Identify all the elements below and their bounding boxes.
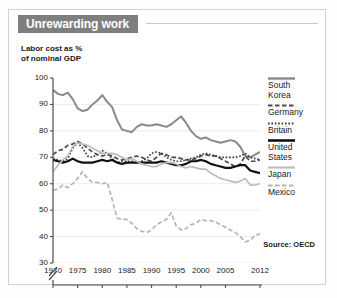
legend-label: United States	[268, 143, 322, 162]
legend-swatch-icon	[268, 138, 295, 142]
legend-swatch-icon	[268, 76, 295, 80]
legend-item[interactable]: Germany	[268, 103, 322, 118]
x-tick-label: 1985	[114, 267, 140, 275]
legend-item[interactable]: South Korea	[268, 76, 322, 100]
legend-swatch-icon	[268, 121, 295, 125]
legend-swatch-icon	[268, 103, 295, 107]
legend-item[interactable]: Britain	[268, 121, 322, 136]
x-tick-label: 2000	[188, 267, 214, 275]
x-tick-label: 1995	[163, 267, 189, 275]
x-tick-label: 2005	[213, 267, 239, 275]
plot-svg	[53, 78, 260, 263]
x-tick-label: 1975	[65, 267, 91, 275]
legend-swatch-icon	[268, 165, 295, 169]
x-tick-label: 1990	[139, 267, 165, 275]
x-tick-label: 2012	[247, 267, 273, 275]
y-tick-label: 60	[22, 180, 48, 188]
source-note: Source: OECD	[263, 240, 315, 249]
y-axis-caption-line: Labor cost as %	[21, 44, 82, 54]
y-axis-caption-line: of nominal GDP	[21, 54, 82, 64]
legend-swatch-icon	[268, 183, 295, 187]
legend-label: Britain	[268, 126, 322, 136]
legend-label: South Korea	[268, 81, 322, 100]
legend-label: Japan	[268, 170, 322, 180]
legend-label: Mexico	[268, 188, 322, 198]
y-tick-label: 50	[22, 206, 48, 214]
plot-area	[53, 78, 260, 263]
series-line	[53, 143, 260, 185]
x-tick-label: 1970	[40, 267, 66, 275]
x-tick-label: 1980	[89, 267, 115, 275]
chart-figure: Unrewarding work Labor cost as %of nomin…	[0, 0, 337, 298]
legend-item[interactable]: Japan	[268, 165, 322, 180]
title-rule	[146, 23, 318, 24]
chart-title-banner: Unrewarding work	[18, 15, 138, 33]
legend-item[interactable]: Mexico	[268, 183, 322, 198]
chart-legend: South KoreaGermanyBritainUnited StatesJa…	[268, 76, 322, 200]
y-tick-label: 90	[22, 100, 48, 108]
y-tick-label: 40	[22, 233, 48, 241]
y-tick-label: 70	[22, 153, 48, 161]
y-tick-label: 100	[22, 74, 48, 82]
series-line	[53, 172, 260, 242]
y-tick-label: 80	[22, 127, 48, 135]
page-title: Unrewarding work	[26, 18, 129, 30]
y-axis-caption: Labor cost as %of nominal GDP	[21, 44, 82, 64]
series-line	[53, 90, 260, 157]
legend-item[interactable]: United States	[268, 138, 322, 162]
legend-label: Germany	[268, 108, 322, 118]
